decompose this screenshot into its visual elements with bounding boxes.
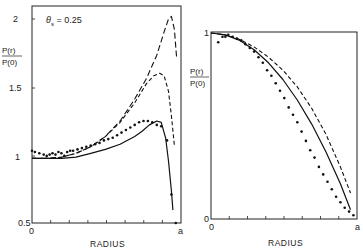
data-point — [147, 120, 150, 123]
data-point — [42, 153, 45, 156]
data-point — [34, 151, 37, 154]
dash-dot-curve — [32, 73, 174, 158]
data-point — [175, 222, 178, 225]
data-point — [249, 47, 252, 50]
data-point — [221, 35, 224, 38]
data-point — [257, 56, 260, 59]
data-point — [138, 121, 141, 124]
data-point — [166, 139, 169, 142]
data-point — [38, 152, 41, 155]
left-x-tick-label-a: a — [178, 226, 183, 236]
data-point — [133, 124, 136, 127]
data-point — [322, 173, 325, 176]
data-point — [63, 155, 66, 158]
data-point — [309, 149, 312, 152]
right-x-tick-label-a: a — [355, 222, 360, 232]
solid-curve — [211, 33, 351, 210]
right-y-label-denominator: P(0) — [190, 79, 205, 88]
left-x-tick-label-0: 0 — [29, 226, 34, 236]
left-x-axis-label: RADIUS — [90, 239, 125, 249]
data-point — [160, 125, 163, 128]
data-point — [45, 155, 48, 158]
right-plot-frame — [211, 32, 357, 219]
data-point — [94, 143, 97, 146]
figure: 2 1.5 1 0.5 0 a RADIUS P(r) P(0) θs = 0.… — [0, 0, 363, 250]
data-point — [274, 82, 277, 85]
data-point — [142, 120, 145, 123]
data-point — [170, 193, 173, 196]
data-point — [326, 181, 329, 184]
data-point — [240, 39, 243, 42]
data-point — [313, 156, 316, 159]
data-point — [224, 35, 227, 38]
right-series — [211, 33, 355, 217]
data-point — [339, 201, 342, 204]
left-panel: 2 1.5 1 0.5 0 a RADIUS P(r) P(0) θs = 0.… — [2, 6, 183, 249]
data-point — [107, 138, 110, 141]
data-point — [31, 149, 34, 152]
data-point — [300, 130, 303, 133]
data-point — [111, 137, 114, 140]
data-point — [72, 149, 75, 152]
data-point — [85, 146, 88, 149]
data-point — [292, 114, 295, 117]
solid-curve — [32, 121, 173, 210]
data-point — [305, 140, 308, 143]
right-x-tick-label-0: 0 — [209, 222, 214, 232]
data-point — [125, 129, 128, 132]
data-point — [348, 210, 351, 213]
data-point — [231, 35, 234, 38]
data-point — [66, 151, 69, 154]
data-point — [296, 121, 299, 124]
data-point — [98, 142, 101, 145]
data-point — [335, 195, 338, 198]
left-plot-frame — [32, 6, 181, 223]
data-point — [48, 153, 51, 156]
data-point — [57, 151, 60, 154]
data-point — [253, 50, 256, 53]
data-point — [270, 75, 273, 78]
data-point — [116, 134, 119, 137]
long-dash-curve — [32, 16, 177, 158]
data-point — [81, 147, 84, 150]
data-point — [51, 152, 54, 155]
left-y-tick-label-1.5: 1.5 — [9, 83, 22, 93]
left-y-tick-label-2: 2 — [13, 14, 18, 24]
data-point — [244, 43, 247, 46]
left-y-label-numerator: P(r) — [2, 46, 16, 55]
data-point — [103, 139, 106, 142]
data-point — [60, 152, 63, 155]
data-point — [76, 148, 79, 151]
data-point — [236, 37, 239, 40]
data-point — [283, 97, 286, 100]
data-point — [343, 207, 346, 210]
data-point — [54, 153, 57, 156]
data-point — [262, 62, 265, 65]
right-x-axis-label: RADIUS — [268, 238, 303, 248]
data-point — [129, 126, 132, 129]
left-y-tick-label-1: 1 — [15, 152, 20, 162]
data-point — [318, 166, 321, 169]
dashed-curve — [211, 33, 351, 193]
right-y-label-numerator: P(r) — [190, 67, 204, 76]
right-panel: 1 0 0 a RADIUS P(r) P(0) — [190, 28, 360, 248]
data-point — [156, 124, 159, 127]
data-point — [151, 121, 154, 124]
data-point — [69, 149, 72, 152]
left-y-label-denominator: P(0) — [2, 58, 17, 67]
data-point — [227, 34, 230, 37]
data-point — [217, 41, 220, 44]
left-series — [31, 16, 177, 224]
data-point — [120, 131, 123, 134]
right-y-tick-label-1: 1 — [204, 28, 209, 38]
theta-annotation: θs = 0.25 — [46, 15, 82, 27]
data-point — [287, 106, 290, 109]
data-point — [266, 69, 269, 72]
data-point — [352, 214, 355, 217]
data-point — [331, 188, 334, 191]
data-point — [89, 144, 92, 147]
data-point — [279, 89, 282, 92]
